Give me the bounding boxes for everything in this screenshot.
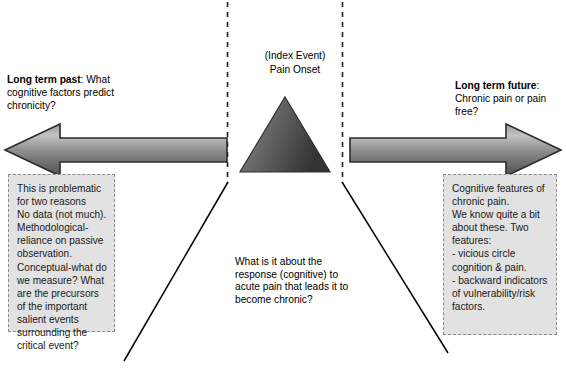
past-problems-panel-text: This is problematic for two reasons No d… xyxy=(17,182,110,352)
long-term-past-heading-bold: Long term past xyxy=(7,74,81,85)
center-transition-question: What is it about the response (cognitive… xyxy=(235,256,359,306)
index-event-triangle xyxy=(240,97,330,172)
left-pointing-arrow-past xyxy=(5,124,227,176)
left-diverging-line xyxy=(124,182,228,361)
future-features-panel-text: Cognitive features of chronic pain. We k… xyxy=(452,182,552,313)
long-term-future-heading-bold: Long term future xyxy=(455,80,537,91)
right-pointing-arrow-future xyxy=(350,124,561,176)
long-term-future-heading: Long term future: Chronic pain or pain f… xyxy=(455,79,563,119)
past-problems-panel: This is problematic for two reasons No d… xyxy=(8,174,115,332)
future-features-panel: Cognitive features of chronic pain. We k… xyxy=(443,174,557,335)
index-event-label: (Index Event) Pain Onset xyxy=(236,49,354,76)
long-term-past-heading: Long term past: What cognitive factors p… xyxy=(7,73,122,113)
diagram-canvas: (Index Event) Pain Onset Long term past:… xyxy=(0,0,566,369)
